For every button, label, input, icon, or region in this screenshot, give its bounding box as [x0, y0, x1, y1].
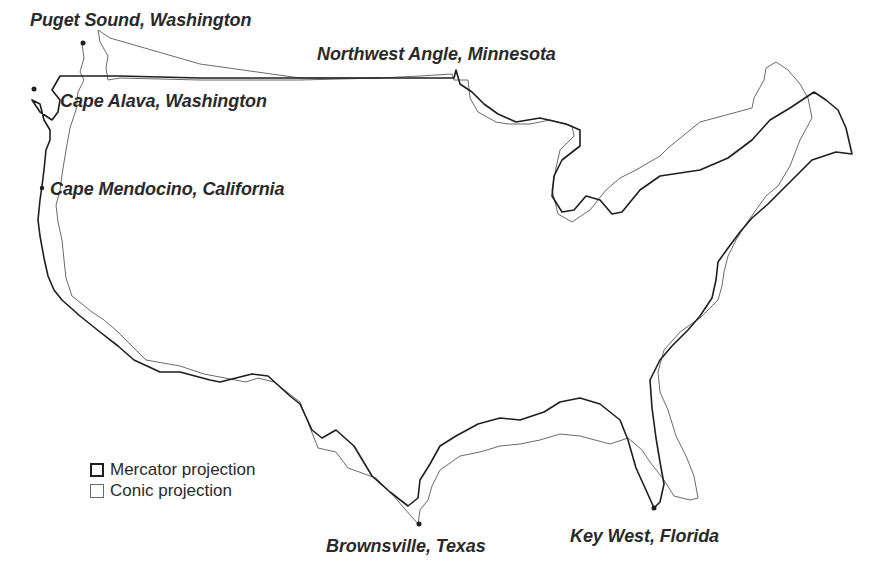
- conic-swatch-icon: [90, 484, 104, 498]
- legend: Mercator projection Conic projection: [90, 459, 256, 501]
- puget-sound-marker: [81, 41, 86, 46]
- label-puget-sound: Puget Sound, Washington: [30, 10, 251, 31]
- legend-label-mercator: Mercator projection: [110, 460, 256, 480]
- legend-label-conic: Conic projection: [110, 481, 232, 501]
- label-northwest-angle: Northwest Angle, Minnesota: [317, 44, 556, 65]
- mercator-swatch-icon: [90, 463, 104, 477]
- label-key-west: Key West, Florida: [570, 526, 719, 547]
- legend-item-mercator: Mercator projection: [90, 459, 256, 480]
- legend-item-conic: Conic projection: [90, 480, 256, 501]
- cape-mendocino-marker: [40, 186, 44, 190]
- key-west-marker: [652, 506, 657, 511]
- label-brownsville: Brownsville, Texas: [326, 536, 486, 557]
- brownsville-marker: [417, 522, 422, 527]
- label-cape-mendocino: Cape Mendocino, California: [50, 179, 284, 200]
- mercator-projection-outline: [32, 70, 852, 508]
- label-cape-alava: Cape Alava, Washington: [60, 91, 267, 112]
- cape-alava-marker: [32, 87, 37, 92]
